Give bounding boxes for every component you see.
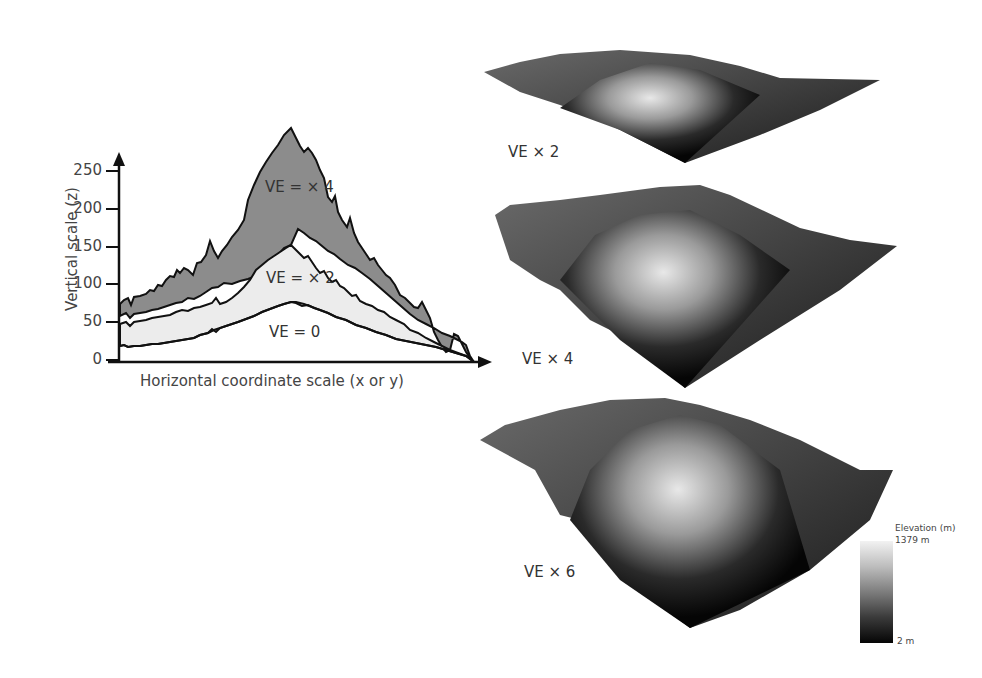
legend-max: 1379 m <box>895 535 930 545</box>
panel-label-ve2: VE × 2 <box>508 143 559 161</box>
legend-min: 2 m <box>897 636 914 646</box>
panel-label-ve6: VE × 6 <box>524 563 575 581</box>
terrain-panels <box>0 0 982 678</box>
terrain-ve6 <box>480 398 893 628</box>
panel-label-ve4: VE × 4 <box>522 350 573 368</box>
legend-title: Elevation (m) <box>895 523 955 533</box>
elevation-colorbar <box>860 541 893 643</box>
